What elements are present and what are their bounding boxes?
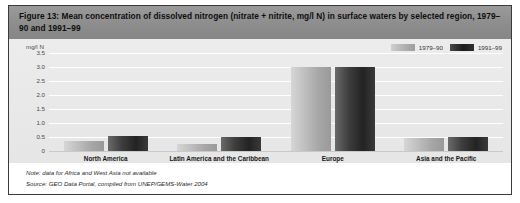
figure-title: Figure 13: Mean concentration of dissolv… — [19, 10, 501, 34]
bar-1991-99[interactable] — [108, 136, 148, 151]
y-axis-tick-label: 3.0 — [36, 64, 45, 70]
chart-legend: 1979–90 1991–99 — [391, 43, 502, 52]
chart-panel: mg/l N 1979–90 1991–99 3.53.02.52.01.51.… — [9, 39, 511, 163]
legend-item-1991-99[interactable]: 1991–99 — [450, 44, 502, 51]
bar-1979-90[interactable] — [404, 138, 444, 151]
bar-group: Latin America and the Caribbean — [163, 53, 277, 151]
figure-note: Note: data for Africa and West Asia not … — [26, 167, 511, 178]
legend-label-1991-99: 1991–99 — [478, 44, 502, 51]
plot-area: 3.53.02.52.01.51.00.50North AmericaLatin… — [49, 53, 503, 151]
figure-container: Figure 13: Mean concentration of dissolv… — [8, 5, 512, 195]
bar-group: Europe — [276, 53, 390, 151]
y-axis-tick-label: 2.5 — [36, 78, 45, 84]
bar-group-bars — [49, 53, 163, 151]
y-axis-tick-label: 3.5 — [36, 50, 45, 56]
y-axis-tick-label: 2.0 — [36, 92, 45, 98]
figure-footer: Note: data for Africa and West Asia not … — [9, 163, 511, 194]
bar-group: Asia and the Pacific — [390, 53, 504, 151]
legend-label-1979-90: 1979–90 — [419, 44, 443, 51]
legend-swatch-1991-99 — [450, 44, 474, 51]
bar-group-bars — [390, 53, 504, 151]
bar-1991-99[interactable] — [335, 67, 375, 151]
bar-1979-90[interactable] — [177, 144, 217, 151]
legend-item-1979-90[interactable]: 1979–90 — [391, 44, 443, 51]
figure-title-bar: Figure 13: Mean concentration of dissolv… — [9, 6, 511, 39]
legend-swatch-1979-90 — [391, 44, 415, 51]
x-axis-category-label: Asia and the Pacific — [372, 155, 513, 162]
y-axis-tick-label: 1.0 — [36, 120, 45, 126]
gridline — [49, 151, 503, 152]
bar-1991-99[interactable] — [448, 137, 488, 151]
bar-group-bars — [163, 53, 277, 151]
bar-1979-90[interactable] — [291, 67, 331, 151]
bar-group-bars — [276, 53, 390, 151]
y-axis-tick-label: 0 — [42, 148, 45, 154]
figure-source: Source: GEO Data Portal, compiled from U… — [26, 178, 511, 189]
bar-group: North America — [49, 53, 163, 151]
bar-1979-90[interactable] — [64, 141, 104, 151]
y-axis-tick-label: 0.5 — [36, 134, 45, 140]
y-axis-tick-label: 1.5 — [36, 106, 45, 112]
bar-1991-99[interactable] — [221, 137, 261, 151]
